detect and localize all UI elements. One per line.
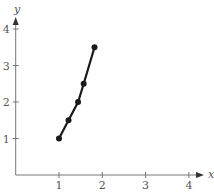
- data-series: [56, 44, 98, 141]
- data-point-marker: [56, 136, 62, 142]
- y-tick-label: 3: [3, 60, 10, 73]
- data-point-marker: [66, 117, 72, 123]
- y-axis-arrow-icon: [13, 17, 19, 25]
- x-axis-label: x: [208, 168, 214, 181]
- y-tick-label: 2: [3, 96, 10, 109]
- x-tick-label: 1: [56, 179, 63, 192]
- axes: [13, 17, 204, 178]
- x-axis-arrow-icon: [196, 172, 204, 178]
- series-line: [59, 47, 95, 138]
- y-tick-label: 1: [3, 133, 10, 146]
- x-tick-label: 4: [185, 179, 192, 192]
- data-point-marker: [81, 81, 87, 87]
- y-tick-label: 4: [3, 23, 10, 36]
- data-point-marker: [75, 99, 81, 105]
- data-point-marker: [92, 44, 98, 50]
- line-chart: 12341234 x y: [0, 0, 214, 192]
- x-tick-label: 2: [99, 179, 106, 192]
- y-axis-label: y: [13, 3, 21, 16]
- ticks: 12341234: [3, 23, 193, 192]
- x-tick-label: 3: [142, 179, 149, 192]
